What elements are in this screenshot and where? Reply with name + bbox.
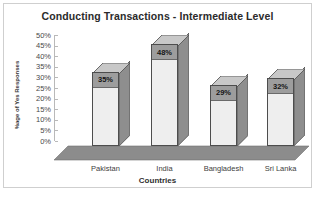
bar-value-band: 35%: [93, 73, 118, 88]
bar-value-label: 48%: [157, 48, 172, 57]
y-axis-tick-mark: [55, 141, 58, 142]
y-axis-tick-label: 30%: [36, 73, 52, 82]
bar-front-face: 48%: [151, 44, 178, 146]
bar-value-label: 32%: [273, 82, 288, 91]
y-axis-tick-label: 40%: [36, 52, 52, 61]
y-axis-tick: 15%: [36, 105, 52, 114]
y-axis-tick-label: 35%: [36, 62, 52, 71]
bar-value-band: 32%: [268, 79, 293, 94]
y-axis-tick-label: 5%: [40, 126, 52, 135]
y-axis-tick: 35%: [36, 62, 52, 71]
y-axis-tick-label: 15%: [36, 105, 52, 114]
y-axis-tick-label: 25%: [36, 84, 52, 93]
x-axis-tick-labels: PakistanIndiaBangladeshSri Lanka: [54, 164, 312, 176]
y-axis-tick-mark: [55, 67, 58, 68]
bar-column: 29%: [210, 85, 237, 146]
y-axis-tick: 20%: [36, 94, 52, 103]
x-axis-tick-label: Bangladesh: [197, 164, 250, 173]
y-axis-tick: 50%: [36, 31, 52, 40]
bar-value-band: 48%: [152, 45, 177, 60]
chart-title: Conducting Transactions - Intermediate L…: [4, 10, 311, 22]
y-axis-tick-labels: 50%45%40%35%30%25%20%15%10%5%0%: [4, 32, 52, 142]
y-axis-tick-mark: [55, 77, 58, 78]
y-axis-tick: 25%: [36, 84, 52, 93]
y-axis-tick-label: 0%: [40, 137, 52, 146]
y-axis-tick-mark: [55, 130, 58, 131]
y-axis-tick-mark: [55, 109, 58, 110]
bar-value-label: 35%: [98, 75, 113, 84]
bar-front-face: 29%: [210, 85, 237, 146]
y-axis-tick-mark: [55, 56, 58, 57]
y-axis-tick-mark: [55, 99, 58, 100]
bar-front-face: 35%: [92, 72, 119, 146]
bar-value-label: 29%: [216, 88, 231, 97]
y-axis-tick-label: 45%: [36, 41, 52, 50]
y-axis-tick-label: 50%: [36, 31, 52, 40]
bar-front-face: 32%: [267, 78, 294, 146]
y-axis-tick-mark: [55, 120, 58, 121]
y-axis-tick-label: 10%: [36, 115, 52, 124]
bar-column: 48%: [151, 44, 178, 146]
bar-side-face: [178, 33, 189, 146]
y-axis-tick-mark: [55, 46, 58, 47]
x-axis-title: Countries: [4, 176, 311, 185]
plot-area: 35%48%29%32%: [54, 32, 309, 160]
y-axis-tick-mark: [55, 35, 58, 36]
x-axis-tick-label: Sri Lanka: [254, 164, 307, 173]
chart-frame: Conducting Transactions - Intermediate L…: [3, 3, 312, 188]
bar-value-band: 29%: [211, 86, 236, 101]
y-axis-tick: 0%: [40, 137, 52, 146]
x-axis-tick-label: India: [138, 164, 191, 173]
bar-column: 35%: [92, 72, 119, 146]
y-axis-tick-label: 20%: [36, 94, 52, 103]
y-axis-tick: 5%: [40, 126, 52, 135]
x-axis-tick-label: Pakistan: [79, 164, 132, 173]
y-axis-tick: 10%: [36, 115, 52, 124]
y-axis-tick: 40%: [36, 52, 52, 61]
bar-column: 32%: [267, 78, 294, 146]
y-axis-tick: 30%: [36, 73, 52, 82]
y-axis-tick-mark: [55, 88, 58, 89]
y-axis-tick: 45%: [36, 41, 52, 50]
